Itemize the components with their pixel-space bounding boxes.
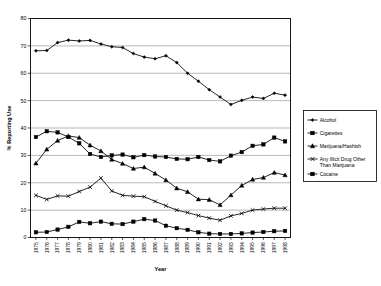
data-point-marker: [121, 222, 124, 225]
data-point-marker: [88, 185, 92, 189]
data-point-marker: [208, 232, 211, 235]
data-point-marker: [143, 153, 146, 156]
data-point-marker: [175, 157, 178, 160]
data-point-marker: [262, 230, 265, 233]
data-point-marker: [283, 229, 286, 232]
series-cocaine: [34, 217, 287, 235]
data-point-marker: [78, 142, 81, 145]
x-tick-label: 1980: [87, 242, 93, 253]
data-point-marker: [45, 230, 48, 233]
x-tick-label: 1982: [109, 242, 115, 253]
y-tick-label: 40: [21, 125, 27, 131]
legend-label: Alcohol: [320, 117, 336, 123]
data-point-marker: [78, 39, 81, 42]
data-point-marker: [164, 224, 167, 227]
y-tick-label: 30: [21, 152, 27, 158]
x-tick-label: 1997: [271, 242, 277, 253]
data-point-marker: [273, 230, 276, 233]
data-point-marker: [34, 193, 38, 197]
data-point-marker: [88, 152, 91, 155]
data-point-marker: [110, 189, 114, 193]
chart-container: 01020304050607080 1975197619771978197919…: [0, 0, 381, 286]
x-tick-label: 1986: [152, 242, 158, 253]
data-point-marker: [154, 57, 157, 60]
series-line: [36, 178, 285, 220]
series-line: [36, 40, 285, 104]
x-tick-label: 1981: [98, 242, 104, 253]
series-alcohol: [34, 39, 286, 106]
x-tick-label: 1994: [239, 242, 245, 253]
x-tick-label: 1985: [141, 242, 147, 253]
data-point-marker: [34, 135, 37, 138]
x-tick-label: 1991: [206, 242, 212, 253]
data-point-marker: [77, 190, 81, 194]
data-point-marker: [78, 220, 81, 223]
data-point-marker: [67, 39, 70, 42]
data-point-marker: [110, 222, 113, 225]
data-point-marker: [99, 155, 102, 158]
series-any-illicit-drug-other-than-marijuana: [34, 176, 287, 222]
data-point-marker: [89, 39, 92, 42]
series-line: [36, 131, 285, 161]
data-point-marker: [186, 158, 189, 161]
y-axis-tick-labels: 01020304050607080: [21, 15, 27, 240]
data-point-marker: [34, 231, 37, 234]
data-point-marker: [110, 154, 113, 157]
chart-legend: AlcoholCigarettesMarijuana/HashishAny Il…: [304, 111, 377, 182]
series-line: [36, 219, 285, 234]
data-point-marker: [164, 178, 168, 182]
data-point-marker: [218, 160, 221, 163]
data-point-marker: [164, 204, 168, 208]
data-point-marker: [272, 170, 276, 174]
x-tick-label: 1983: [119, 242, 125, 253]
data-point-marker: [273, 92, 276, 95]
data-point-marker: [311, 172, 315, 176]
data-point-marker: [186, 228, 189, 231]
x-tick-label: 1979: [76, 242, 82, 253]
x-tick-label: 1998: [282, 242, 288, 253]
data-point-marker: [132, 156, 135, 159]
legend-label: Any Illicit Drug Other: [320, 156, 366, 162]
data-point-marker: [153, 219, 156, 222]
data-point-marker: [240, 183, 244, 187]
data-point-marker: [240, 99, 243, 102]
data-series-layer: [34, 39, 287, 236]
x-tick-label: 1996: [260, 242, 266, 253]
data-point-marker: [45, 130, 48, 133]
x-tick-label: 1988: [174, 242, 180, 253]
x-tick-label: 1987: [163, 242, 169, 253]
series-marijuana-hashish: [34, 134, 287, 207]
series-line: [36, 136, 285, 205]
data-point-marker: [153, 155, 156, 158]
data-point-marker: [99, 176, 103, 180]
data-point-marker: [262, 143, 265, 146]
legend-label: Marijuana/Hashish: [320, 143, 362, 149]
data-point-marker: [67, 225, 70, 228]
y-tick-label: 60: [21, 70, 27, 76]
data-point-marker: [218, 232, 221, 235]
data-point-marker: [251, 144, 254, 147]
data-point-marker: [229, 154, 232, 157]
x-tick-label: 1992: [217, 242, 223, 253]
data-point-marker: [273, 136, 276, 139]
data-point-marker: [99, 220, 102, 223]
data-point-marker: [143, 217, 146, 220]
data-point-marker: [251, 231, 254, 234]
data-point-marker: [56, 228, 59, 231]
data-point-marker: [240, 150, 243, 153]
data-point-marker: [251, 96, 254, 99]
data-point-marker: [208, 158, 211, 161]
x-tick-label: 1984: [130, 242, 136, 253]
x-tick-label: 1989: [184, 242, 190, 253]
x-tick-label: 1977: [54, 242, 60, 253]
legend-label: Cigarettes: [320, 130, 343, 136]
y-tick-label: 0: [23, 234, 26, 240]
y-tick-label: 10: [21, 207, 27, 213]
legend-label: Cocaine: [320, 171, 339, 177]
x-axis-tick-labels: 1975197619771978197919801981198219831984…: [33, 242, 288, 253]
data-point-marker: [311, 131, 315, 135]
x-tick-label: 1976: [44, 242, 50, 253]
x-axis-title: Year: [155, 266, 168, 272]
data-point-marker: [283, 140, 286, 143]
line-chart: 01020304050607080 1975197619771978197919…: [0, 0, 381, 286]
